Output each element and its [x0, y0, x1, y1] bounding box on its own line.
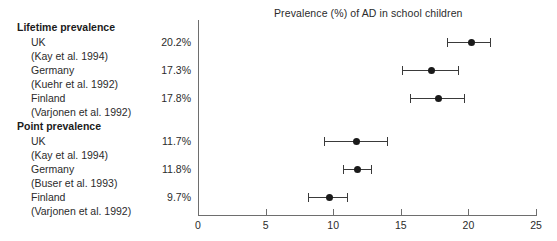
confidence-interval-cap-lower	[410, 94, 411, 103]
confidence-interval-cap-upper	[458, 66, 459, 75]
confidence-interval-cap-upper	[387, 137, 388, 146]
confidence-interval-cap-upper	[490, 38, 491, 47]
data-point-marker	[428, 67, 435, 74]
confidence-interval-line	[324, 141, 388, 142]
confidence-interval-cap-lower	[343, 165, 344, 174]
study-citation: (Kuehr et al. 1992)	[31, 78, 118, 90]
confidence-interval-line	[308, 197, 347, 198]
confidence-interval-cap-lower	[447, 38, 448, 47]
study-citation: (Kay et al. 1994)	[31, 50, 108, 62]
study-label-column: Lifetime prevalenceUK20.2%(Kay et al. 19…	[0, 0, 196, 241]
confidence-interval-cap-upper	[464, 94, 465, 103]
x-axis-tick-label: 25	[530, 219, 542, 231]
confidence-interval-cap-upper	[347, 193, 348, 202]
x-axis-tick-label: 20	[463, 219, 475, 231]
group-header-point: Point prevalence	[17, 120, 101, 132]
data-point-marker	[353, 138, 360, 145]
study-citation: (Kay et al. 1994)	[31, 149, 108, 161]
x-axis-tick-label: 5	[263, 219, 269, 231]
study-country: UK	[31, 36, 46, 48]
confidence-interval-line	[343, 169, 371, 170]
x-axis-tick	[468, 209, 469, 216]
study-value: 11.8%	[162, 163, 191, 175]
study-country: Germany	[31, 64, 74, 76]
data-point-marker	[326, 194, 333, 201]
chart-title: Prevalence (%) of AD in school children	[274, 7, 463, 19]
study-value: 17.8%	[161, 92, 191, 104]
study-value: 9.7%	[167, 191, 191, 203]
study-country: Germany	[31, 163, 74, 175]
confidence-interval-cap-lower	[402, 66, 403, 75]
study-country: Finland	[31, 92, 65, 104]
x-axis-line	[198, 215, 537, 216]
group-header-lifetime: Lifetime prevalence	[17, 21, 115, 33]
study-value: 11.7%	[162, 135, 191, 147]
x-axis-tick	[536, 209, 537, 216]
x-axis-tick	[198, 209, 199, 216]
x-axis-tick	[401, 209, 402, 216]
study-value: 20.2%	[161, 36, 191, 48]
confidence-interval-cap-lower	[308, 193, 309, 202]
confidence-interval-line	[410, 98, 464, 99]
x-axis-tick	[266, 209, 267, 216]
confidence-interval-line	[402, 70, 457, 71]
x-axis-tick-label: 10	[327, 219, 339, 231]
study-value: 17.3%	[161, 64, 191, 76]
confidence-interval-cap-lower	[324, 137, 325, 146]
x-axis-tick	[333, 209, 334, 216]
study-citation: (Varjonen et al. 1992)	[31, 205, 131, 217]
data-point-marker	[468, 39, 475, 46]
confidence-interval-line	[447, 42, 490, 43]
study-citation: (Buser et al. 1993)	[31, 177, 117, 189]
study-country: UK	[31, 135, 46, 147]
study-citation: (Varjonen et al. 1992)	[31, 106, 131, 118]
study-country: Finland	[31, 191, 65, 203]
x-axis-tick-label: 15	[395, 219, 407, 231]
confidence-interval-cap-upper	[371, 165, 372, 174]
data-point-marker	[354, 166, 361, 173]
data-point-marker	[435, 95, 442, 102]
y-axis-line	[198, 20, 199, 216]
